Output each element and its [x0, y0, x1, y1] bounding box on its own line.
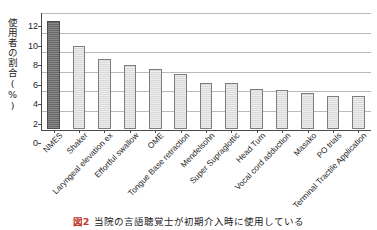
caption-figure-number: 図2 [73, 216, 90, 227]
bar [149, 69, 162, 129]
gridline [41, 13, 371, 14]
y-axis-tick-mark [38, 124, 41, 125]
y-axis-tick-mark [38, 104, 41, 105]
bar [327, 96, 340, 129]
bar [250, 89, 263, 129]
bar [301, 93, 314, 129]
bar [276, 90, 289, 129]
bar [47, 21, 60, 129]
y-axis-tick-mark [38, 46, 41, 47]
bar [73, 46, 86, 129]
y-axis-line [41, 13, 42, 131]
figure-caption: 図2当院の言語聴覚士が初期介入時に使用している [0, 214, 377, 228]
bar [352, 96, 365, 129]
x-axis-tick-label: NMES [41, 131, 64, 154]
bar [200, 83, 213, 129]
bar [124, 65, 137, 129]
plot-area [41, 13, 371, 130]
bar [225, 83, 238, 129]
figure-container: 使用者の割合(%) 024681012 NMESShakerLaryngeal … [0, 0, 377, 230]
y-axis-tick-mark [38, 65, 41, 66]
bar [98, 59, 111, 129]
x-axis-tick-label: Masako [292, 131, 318, 158]
y-axis-tick-label: 8 [22, 60, 38, 70]
caption-text: 当院の言語聴覚士が初期介入時に使用している [94, 216, 304, 227]
y-axis-tick-labels: 024681012 [20, 13, 38, 131]
gridline [41, 33, 371, 34]
y-axis-tick-mark [38, 85, 41, 86]
gridline [41, 52, 371, 53]
y-axis-title: 使用者の割合(%) [3, 18, 17, 118]
y-axis-tick-label: 4 [22, 99, 38, 109]
y-axis-tick-label: 0 [22, 138, 38, 148]
x-axis-tick-label: OME [146, 131, 165, 151]
gridline [41, 72, 371, 73]
y-axis-tick-label: 2 [22, 119, 38, 129]
y-axis-tick-label: 10 [22, 41, 38, 51]
bar [174, 74, 187, 129]
y-axis-tick-mark [38, 26, 41, 27]
y-axis-tick-label: 6 [22, 80, 38, 90]
y-axis-tick-label: 12 [22, 21, 38, 31]
